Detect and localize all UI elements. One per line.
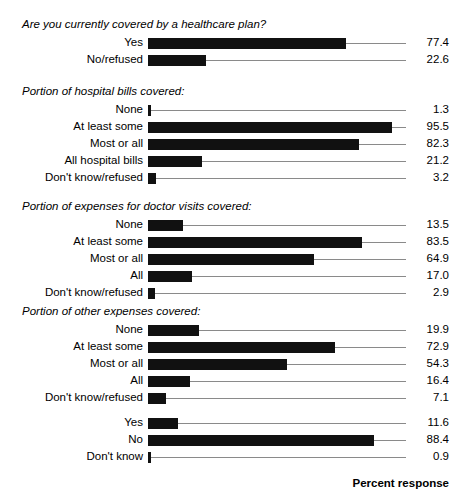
leader-line: [148, 423, 406, 424]
bar: [148, 435, 374, 446]
bar-value-label: 11.6: [389, 416, 449, 429]
bar: [148, 156, 202, 167]
bar-value-label: 2.9: [389, 286, 449, 299]
x-axis-title: Percent response: [249, 477, 449, 490]
bar: [148, 376, 190, 387]
bar-value-label: 82.3: [389, 137, 449, 150]
bar-category-label: None: [0, 103, 143, 116]
bar-category-label: All hospital bills: [0, 154, 143, 167]
leader-line: [148, 398, 406, 399]
bar-category-label: At least some: [0, 120, 143, 133]
bar: [148, 342, 335, 353]
leader-line: [148, 110, 406, 111]
bar-row: At least some83.5: [0, 234, 457, 251]
bar-row: All17.0: [0, 268, 457, 285]
bar-category-label: None: [0, 323, 143, 336]
bar-value-label: 17.0: [389, 269, 449, 282]
bar: [148, 254, 314, 265]
bar-category-label: At least some: [0, 235, 143, 248]
bar-value-label: 77.4: [389, 36, 449, 49]
leader-line: [148, 457, 406, 458]
bar-row: Yes11.6: [0, 415, 457, 432]
bar-category-label: Yes: [0, 416, 143, 429]
bar-category-label: Don't know/refused: [0, 171, 143, 184]
leader-line: [148, 178, 406, 179]
bar: [148, 38, 346, 49]
bar-row: No88.4: [0, 432, 457, 449]
bar-value-label: 0.9: [389, 450, 449, 463]
bar-row: All hospital bills21.2: [0, 153, 457, 170]
bar-value-label: 54.3: [389, 357, 449, 370]
bar: [148, 271, 192, 282]
bar-row: At least some95.5: [0, 119, 457, 136]
horizontal-bar-chart: Percent response Are you currently cover…: [0, 0, 457, 497]
group-title: Portion of expenses for doctor visits co…: [22, 200, 251, 213]
bar-value-label: 16.4: [389, 374, 449, 387]
bar-row: Don't know/refused3.2: [0, 170, 457, 187]
bar-value-label: 72.9: [389, 340, 449, 353]
bar: [148, 173, 156, 184]
bar-category-label: Don't know: [0, 450, 143, 463]
bar: [148, 288, 155, 299]
bar-value-label: 64.9: [389, 252, 449, 265]
bar-category-label: Most or all: [0, 252, 143, 265]
bar-row: At least some72.9: [0, 339, 457, 356]
bar: [148, 418, 178, 429]
bar-row: Most or all54.3: [0, 356, 457, 373]
bar-category-label: No: [0, 433, 143, 446]
bar-value-label: 13.5: [389, 218, 449, 231]
bar: [148, 139, 359, 150]
bar-category-label: Yes: [0, 36, 143, 49]
bar-category-label: Most or all: [0, 137, 143, 150]
bar: [148, 359, 287, 370]
bar-row: No/refused22.6: [0, 52, 457, 69]
bar-row: None1.3: [0, 102, 457, 119]
bar-row: Don't know0.9: [0, 449, 457, 466]
bar-row: Most or all82.3: [0, 136, 457, 153]
group-title: Portion of other expenses covered:: [22, 305, 200, 318]
bar-value-label: 22.6: [389, 53, 449, 66]
bar-row: None13.5: [0, 217, 457, 234]
bar-value-label: 83.5: [389, 235, 449, 248]
bar: [148, 237, 362, 248]
bar-category-label: All: [0, 269, 143, 282]
leader-line: [148, 293, 406, 294]
bar-value-label: 95.5: [389, 120, 449, 133]
bar-value-label: 88.4: [389, 433, 449, 446]
bar-category-label: No/refused: [0, 53, 143, 66]
bar: [148, 122, 392, 133]
bar-row: Most or all64.9: [0, 251, 457, 268]
group-title: Portion of hospital bills covered:: [22, 85, 184, 98]
bar-row: All16.4: [0, 373, 457, 390]
bar: [148, 452, 151, 463]
bar-value-label: 3.2: [389, 171, 449, 184]
bar-category-label: At least some: [0, 340, 143, 353]
bar-category-label: None: [0, 218, 143, 231]
bar-row: Don't know/refused7.1: [0, 390, 457, 407]
group-title: Are you currently covered by a healthcar…: [22, 18, 266, 31]
leader-line: [148, 225, 406, 226]
bar-category-label: All: [0, 374, 143, 387]
bar-row: Yes77.4: [0, 35, 457, 52]
bar-value-label: 7.1: [389, 391, 449, 404]
bar: [148, 325, 199, 336]
bar: [148, 55, 206, 66]
bar-category-label: Most or all: [0, 357, 143, 370]
bar-value-label: 21.2: [389, 154, 449, 167]
bar-category-label: Don't know/refused: [0, 286, 143, 299]
bar: [148, 393, 166, 404]
bar-category-label: Don't know/refused: [0, 391, 143, 404]
bar-row: None19.9: [0, 322, 457, 339]
bar-value-label: 1.3: [389, 103, 449, 116]
bar: [148, 105, 151, 116]
bar: [148, 220, 183, 231]
bar-value-label: 19.9: [389, 323, 449, 336]
bar-row: Don't know/refused2.9: [0, 285, 457, 302]
